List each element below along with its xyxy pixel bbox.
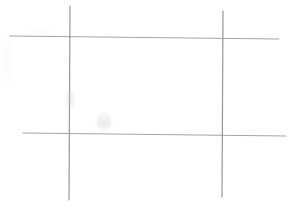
smudge-center <box>97 112 111 132</box>
smudge-left-line <box>66 91 74 109</box>
hand-drawn-grid <box>0 0 293 208</box>
paper-background <box>0 0 293 208</box>
sketch-canvas <box>0 0 293 208</box>
